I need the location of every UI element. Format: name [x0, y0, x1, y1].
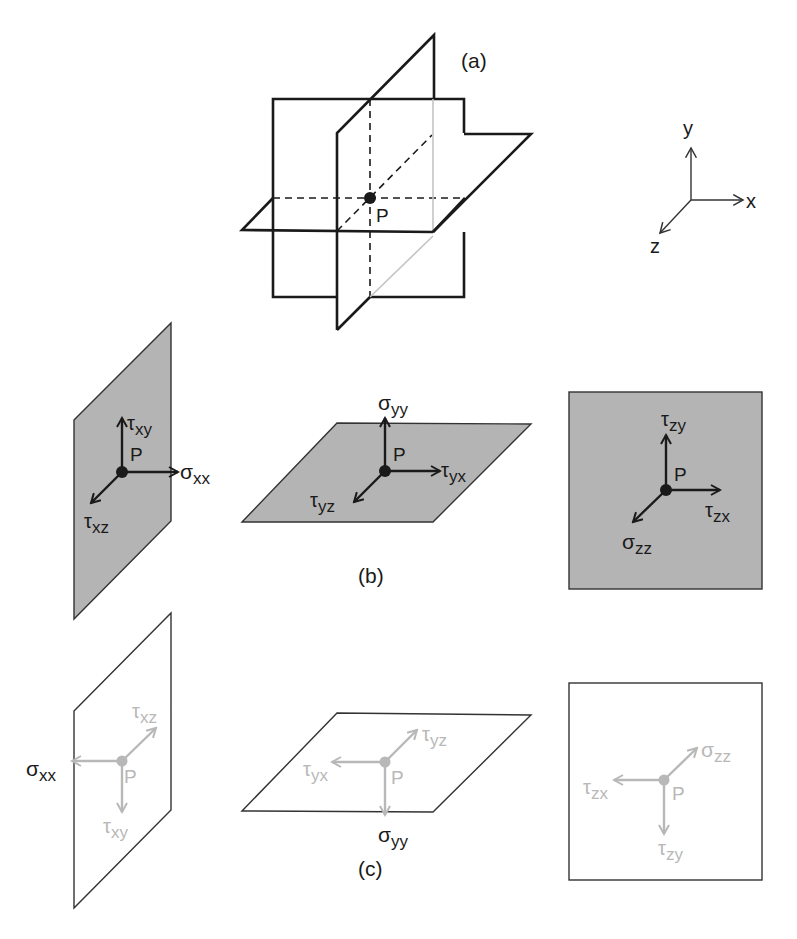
point-p — [364, 192, 376, 204]
c-y-point-label: P — [391, 767, 404, 788]
c-z-point-label: P — [672, 783, 685, 804]
panel-a-intersecting-planes: P (a) — [242, 35, 531, 330]
b-x-point-label: P — [130, 444, 143, 465]
stress-diagram: P (a) y x z P τxy σxx τxz — [0, 0, 797, 939]
b-y-point-label: P — [393, 444, 406, 465]
c-tau-yx-label: τyx — [303, 758, 328, 785]
c-x-point-label: P — [124, 766, 137, 787]
c-x-face: P τxz σxx τxy — [26, 613, 171, 908]
b-z-point-label: P — [674, 464, 687, 485]
point-p-label: P — [376, 205, 389, 226]
c-tau-xy-label: τxy — [103, 815, 128, 842]
c-sigma-xx-label: σxx — [26, 757, 56, 785]
yz-plane — [337, 35, 434, 330]
panel-c-label: (c) — [358, 857, 383, 880]
panel-a-label: (a) — [461, 49, 487, 72]
z-axis-arrow — [660, 200, 691, 233]
b-y-face: P σyy τyx τyz — [242, 391, 531, 522]
sigma-yy-label: σyy — [378, 391, 408, 419]
b-x-face: P τxy σxx τxz — [74, 323, 210, 619]
panel-b-label: (b) — [358, 564, 384, 587]
c-tau-xz-label: τxz — [132, 700, 157, 727]
c-sigma-yy-label: σyy — [378, 823, 408, 851]
axes-triad: y x z — [650, 117, 756, 257]
c-tau-zx-label: τzx — [583, 776, 608, 803]
panel-c: P τxz σxx τxy P τyz τyx σyy P σzz τzx — [26, 613, 762, 908]
x-axis-label: x — [746, 190, 756, 212]
sigma-xx-label: σxx — [180, 460, 210, 488]
c-sigma-zz-label: σzz — [701, 738, 731, 766]
z-axis-label: z — [650, 235, 660, 257]
panel-b: P τxy σxx τxz P σyy τyx τyz P τzy τzx — [74, 323, 762, 619]
b-z-face: P τzy τzx σzz — [569, 392, 762, 589]
c-tau-zy-label: τzy — [658, 837, 683, 864]
y-axis-label: y — [683, 117, 693, 139]
c-y-face: P τyz τyx σyy — [242, 713, 531, 851]
c-tau-yz-label: τyz — [422, 723, 447, 750]
c-z-face: P σzz τzx τzy — [569, 683, 762, 880]
